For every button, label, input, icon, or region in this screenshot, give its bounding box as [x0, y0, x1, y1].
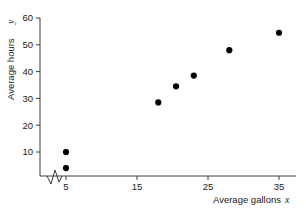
y-axis-title-text: Average hours [5, 38, 16, 100]
data-point [191, 73, 197, 79]
x-tick-label: 5 [63, 181, 68, 192]
x-axis-title-variable: x [284, 194, 290, 205]
data-point [173, 83, 179, 89]
y-axis-title-variable: y [5, 19, 16, 25]
data-point-series [63, 30, 282, 172]
plot-canvas: 102030405060 5152535 Average hours y Ave… [0, 0, 306, 212]
y-tick-label: 50 [22, 39, 33, 50]
y-axis-ticks: 102030405060 [22, 12, 40, 157]
data-point [63, 149, 69, 155]
axis-break-zigzag [47, 170, 62, 184]
y-tick-label: 60 [22, 12, 33, 23]
data-point [155, 99, 161, 105]
data-point [226, 47, 232, 53]
x-axis-title-text: Average gallons [213, 194, 281, 205]
y-tick-label: 40 [22, 66, 33, 77]
y-tick-label: 30 [22, 93, 33, 104]
data-point [276, 30, 282, 36]
y-tick-label: 20 [22, 120, 33, 131]
y-tick-label: 10 [22, 146, 33, 157]
x-tick-label: 35 [274, 181, 285, 192]
x-tick-label: 25 [203, 181, 214, 192]
axes-spines [40, 18, 296, 176]
y-axis-title: Average hours y [5, 19, 16, 100]
scatter-plot-figure: 102030405060 5152535 Average hours y Ave… [0, 0, 306, 212]
x-axis-ticks: 5152535 [63, 176, 284, 192]
x-tick-label: 15 [132, 181, 143, 192]
data-point [63, 165, 69, 171]
x-axis-title: Average gallons x [213, 194, 290, 205]
